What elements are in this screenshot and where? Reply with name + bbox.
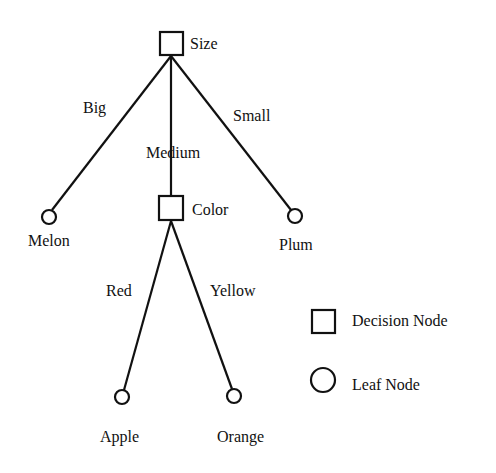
decision-node-color: Color: [159, 196, 229, 220]
circle-icon: [227, 389, 241, 403]
node-label-size: Size: [190, 35, 218, 52]
node-label-melon: Melon: [28, 232, 70, 249]
decision-tree-diagram: Big Medium Small Red Yellow Size Color M…: [0, 0, 496, 473]
edge-label-medium: Medium: [146, 144, 201, 161]
legend: Decision Node Leaf Node: [311, 310, 448, 393]
edge-size-melon: [52, 56, 171, 210]
square-icon: [160, 32, 183, 55]
circle-icon: [115, 390, 129, 404]
edge-label-small: Small: [233, 107, 271, 124]
edge-size-plum: [171, 56, 291, 210]
legend-label-decision: Decision Node: [352, 312, 448, 329]
edge-label-big: Big: [83, 99, 106, 117]
node-label-color: Color: [192, 201, 229, 218]
node-label-apple: Apple: [100, 428, 139, 446]
square-icon: [312, 310, 335, 333]
leaf-node-plum: Plum: [279, 209, 313, 253]
square-icon: [159, 196, 183, 220]
legend-item-decision: Decision Node: [312, 310, 448, 333]
circle-icon: [311, 368, 335, 392]
legend-label-leaf: Leaf Node: [352, 376, 420, 393]
leaf-node-orange: Orange: [217, 389, 264, 446]
circle-icon: [42, 210, 56, 224]
legend-item-leaf: Leaf Node: [311, 368, 420, 393]
node-label-plum: Plum: [279, 236, 313, 253]
circle-icon: [288, 209, 302, 223]
decision-node-size: Size: [160, 32, 218, 55]
edge-label-yellow: Yellow: [210, 282, 256, 299]
edge-color-apple: [124, 221, 171, 390]
edge-color-orange: [171, 221, 232, 389]
edge-label-red: Red: [106, 282, 132, 299]
leaf-node-apple: Apple: [100, 390, 139, 446]
node-label-orange: Orange: [217, 428, 264, 446]
leaf-node-melon: Melon: [28, 210, 70, 249]
